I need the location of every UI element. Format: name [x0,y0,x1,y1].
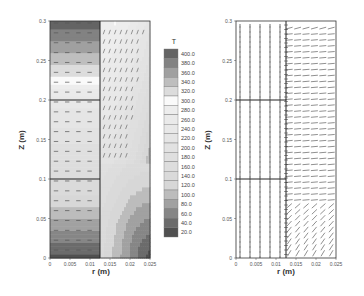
colorbar-label: 100.0 [181,192,195,198]
colorbar-label: 400.0 [181,51,195,57]
colorbar-label: 180.0 [181,154,195,160]
colorbar-swatch [164,209,178,218]
colorbar-swatch [164,181,178,190]
colorbar-label: 220.0 [181,135,195,141]
y-tick-label: 0.2 [225,97,232,103]
x-tick-label: 0.025 [330,261,343,267]
colorbar-swatch [164,105,178,114]
y-tick-label: 0.1 [225,176,232,182]
colorbar-swatch [164,68,178,77]
colorbar-swatch [164,124,178,133]
colorbar-label: 360.0 [181,70,195,76]
colorbar-swatch [164,115,178,124]
left-y-axis-label: Z (m) [17,130,26,150]
y-tick-label: 0.15 [222,137,232,143]
vector-field-plot: 00.0050.010.0150.020.02500.050.10.150.20… [222,18,342,267]
x-tick-label: 0.02 [311,261,321,267]
colorbar-label: 20.0 [181,229,192,235]
colorbar-label: 120.0 [181,182,195,188]
colorbar-swatch [164,228,178,237]
colorbar-label: 300.0 [181,98,195,104]
temperature-contour-plot: 00.0050.010.0150.020.02500.050.10.150.20… [36,18,156,267]
colorbar-title: T [172,38,177,45]
x-tick-label: 0.02 [125,261,135,267]
colorbar-label: 160.0 [181,164,195,170]
x-tick-label: 0 [49,261,52,267]
colorbar-label: 140.0 [181,173,195,179]
colorbar-label: 260.0 [181,117,195,123]
y-tick-label: 0.3 [225,18,232,24]
left-x-axis-label: r (m) [92,267,110,276]
x-tick-label: 0.005 [64,261,77,267]
colorbar-swatch [164,190,178,199]
y-tick-label: 0.25 [36,58,46,64]
colorbar-label: 40.0 [181,220,192,226]
y-tick-label: 0.3 [39,18,46,24]
figure: 00.0050.010.0150.020.02500.050.10.150.20… [0,0,364,296]
colorbar-swatch [164,171,178,180]
colorbar-swatch [164,49,178,58]
right-x-axis-label: r (m) [277,267,295,276]
colorbar-label: 240.0 [181,126,195,132]
colorbar-swatch [164,218,178,227]
colorbar-label: 280.0 [181,107,195,113]
y-tick-label: 0 [43,255,46,261]
y-tick-label: 0.05 [36,216,46,222]
colorbar-swatch [164,162,178,171]
y-tick-label: 0.1 [39,176,46,182]
x-tick-label: 0.025 [144,261,157,267]
colorbar-swatch [164,58,178,67]
x-tick-label: 0 [235,261,238,267]
right-y-axis-label: Z (m) [203,130,212,150]
colorbar-swatch [164,152,178,161]
colorbar-label: 340.0 [181,79,195,85]
x-tick-label: 0.005 [250,261,263,267]
colorbar-label: 380.0 [181,60,195,66]
y-tick-label: 0.2 [39,97,46,103]
colorbar-swatch [164,199,178,208]
temperature-colorbar: 400.0380.0360.0340.0320.0300.0280.0260.0… [164,49,195,237]
colorbar-swatch [164,143,178,152]
colorbar-swatch [164,87,178,96]
colorbar-label: 60.0 [181,211,192,217]
colorbar-swatch [164,77,178,86]
y-tick-label: 0.15 [36,137,46,143]
y-tick-label: 0.05 [222,216,232,222]
y-tick-label: 0 [229,255,232,261]
colorbar-swatch [164,96,178,105]
colorbar-swatch [164,134,178,143]
colorbar-label: 80.0 [181,201,192,207]
colorbar-label: 320.0 [181,88,195,94]
colorbar-label: 200.0 [181,145,195,151]
y-tick-label: 0.25 [222,58,232,64]
